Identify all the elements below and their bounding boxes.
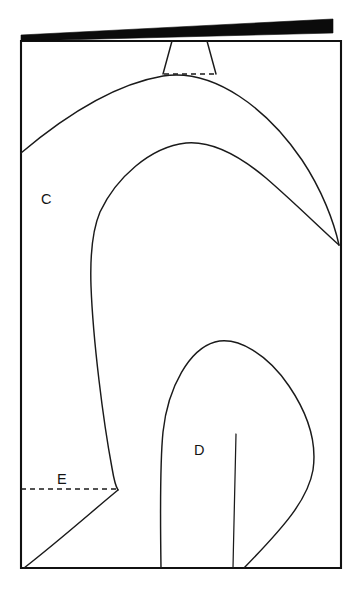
inner-arc-contour (91, 143, 339, 490)
neck-left-edge (163, 41, 172, 74)
inner-arc-lower-contour (24, 490, 118, 568)
outer-arc-contour (21, 75, 339, 245)
black-tapered-band (21, 19, 333, 41)
teardrop-inner-line (233, 434, 236, 568)
region-label-d: D (194, 443, 205, 458)
teardrop-contour (161, 341, 314, 568)
region-label-c: C (41, 192, 52, 207)
drawing-canvas (0, 0, 362, 598)
neck-right-edge (207, 41, 216, 74)
technical-line-drawing: C D E (0, 0, 362, 598)
region-label-e: E (57, 472, 67, 487)
